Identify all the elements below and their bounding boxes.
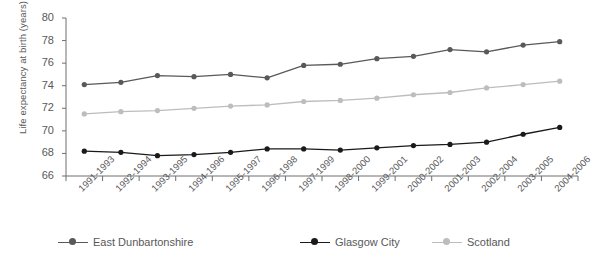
chart-legend: East DunbartonshireGlasgow CityScotland [0,236,601,258]
series-point [118,109,123,114]
series-point [82,82,87,87]
series-line [84,42,559,85]
series-point [155,108,160,113]
series-point [265,102,270,107]
series-point [484,140,489,145]
legend-item: East Dunbartonshire [58,236,193,248]
series-point [521,42,526,47]
series-point [155,73,160,78]
series-point [191,74,196,79]
y-tick-label: 70 [28,125,54,136]
series-point [374,56,379,61]
series-point [374,96,379,101]
legend-item: Scotland [432,236,510,248]
series-point [301,146,306,151]
series-point [521,82,526,87]
y-axis-title: Life expectancy at birth (years) [17,0,28,148]
y-tick-label: 66 [28,170,54,181]
series-point [484,85,489,90]
series-point [447,142,452,147]
series-point [374,145,379,150]
y-tick-label: 78 [28,35,54,46]
series-point [118,80,123,85]
y-tick-label: 68 [28,147,54,158]
series-point [484,49,489,54]
line-chart: Life expectancy at birth (years) 6668707… [0,0,601,263]
y-axis-tick-labels: 6668707274767880 [28,0,54,200]
series-point [228,150,233,155]
series-point [557,39,562,44]
series-point [228,103,233,108]
legend-label: Scotland [467,236,510,248]
series-point [338,62,343,67]
legend-marker-icon [300,237,330,247]
series-point [447,90,452,95]
plot-area [0,0,601,263]
series-point [191,152,196,157]
series-point [411,54,416,59]
series-point [265,75,270,80]
legend-label: Glasgow City [335,236,400,248]
series-point [411,143,416,148]
series-point [82,149,87,154]
series-point [447,47,452,52]
legend-marker-icon [58,237,88,247]
series-point [301,99,306,104]
y-tick-label: 72 [28,102,54,113]
series-point [265,146,270,151]
series-point [557,125,562,130]
legend-marker-icon [432,237,462,247]
series-point [338,147,343,152]
series-point [411,92,416,97]
series-point [228,72,233,77]
series-point [191,106,196,111]
legend-label: East Dunbartonshire [93,236,193,248]
series-point [521,132,526,137]
series-point [557,79,562,84]
y-tick-label: 74 [28,80,54,91]
y-tick-label: 80 [28,12,54,23]
legend-item: Glasgow City [300,236,400,248]
series-point [301,63,306,68]
series-point [118,150,123,155]
series-point [82,111,87,116]
series-point [155,153,160,158]
y-tick-label: 76 [28,57,54,68]
series-point [338,98,343,103]
